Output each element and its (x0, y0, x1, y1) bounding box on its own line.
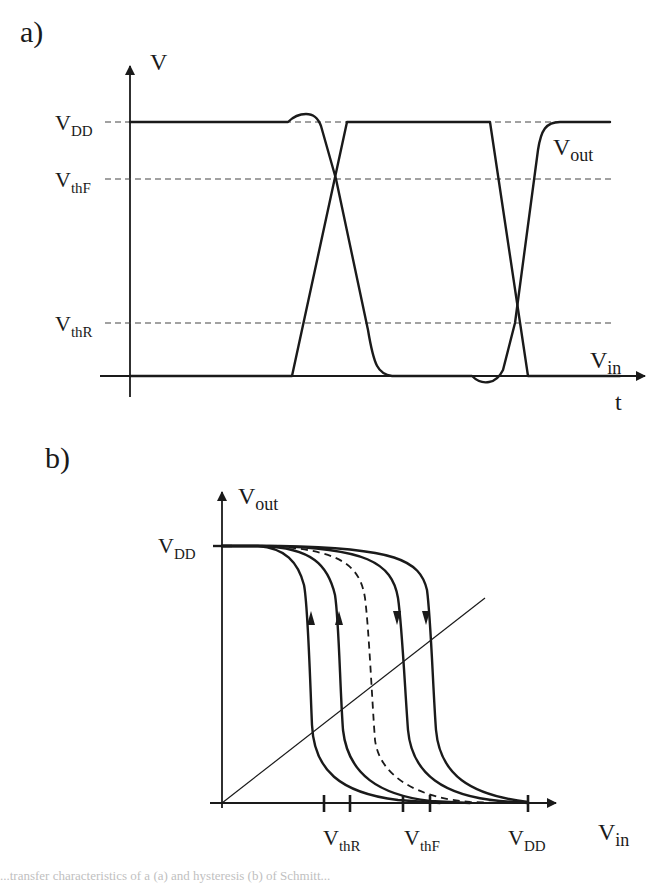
vout-waveform (130, 114, 610, 382)
panel-b-label: b) (45, 441, 70, 475)
panel-a: a) V t VDD VthF VthR Vout Vin (20, 15, 645, 415)
vin-label: Vin (590, 347, 621, 378)
vdd-tick-label: VDD (508, 825, 546, 854)
vthf-tick-label: VthF (404, 825, 440, 854)
figure: a) V t VDD VthF VthR Vout Vin (0, 0, 670, 883)
vout-axis-label: Vout (238, 483, 278, 514)
vout-label: Vout (553, 134, 593, 165)
figure-caption-fragment: ...transfer characteristics of a (a) and… (0, 868, 670, 883)
vdd-level-label: VDD (55, 110, 93, 139)
vin-waveform (130, 122, 620, 376)
vthf-level-label: VthF (55, 167, 91, 196)
y-axis-label: V (150, 49, 168, 75)
vin-axis-label: Vin (598, 819, 629, 850)
panel-b: b) Vout VDD Vin (45, 441, 629, 854)
panel-a-label: a) (20, 15, 43, 49)
transfer-curve-3 (222, 546, 528, 803)
vthr-tick-label: VthR (323, 825, 361, 854)
vdd-level-label: VDD (158, 533, 196, 562)
transfer-curve-reference-dashed (265, 546, 500, 803)
time-axis-label: t (615, 389, 622, 415)
transfer-curve-4 (222, 546, 528, 802)
unity-line (222, 598, 485, 803)
diagram-canvas: a) V t VDD VthF VthR Vout Vin (0, 0, 670, 883)
vthr-level-label: VthR (55, 311, 93, 340)
